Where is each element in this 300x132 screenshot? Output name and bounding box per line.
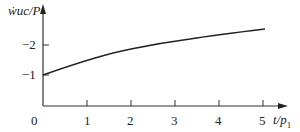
x-axis-label: t/p1 [273,113,291,130]
x-tick-label-4: 4 [215,114,222,127]
x-tick-label-3: 3 [171,114,178,127]
x-tick-label-2: 2 [127,114,134,127]
y-axis-label: ẇuc/P [8,4,41,17]
origin-label: 0 [31,114,38,127]
x-tick-label-1: 1 [84,114,91,127]
x-axis-label-main: t/p [273,112,287,127]
chart-canvas [0,0,300,132]
y-ticks [43,45,49,75]
x-tick-label-5: 5 [259,114,266,127]
x-axis-label-sub: 1 [287,120,292,130]
x-ticks [87,100,263,106]
x-axis-arrow-icon [278,103,288,109]
y-tick-label-1: −1 [22,68,36,81]
data-curve [43,29,265,75]
y-tick-label-2: −2 [22,38,36,51]
